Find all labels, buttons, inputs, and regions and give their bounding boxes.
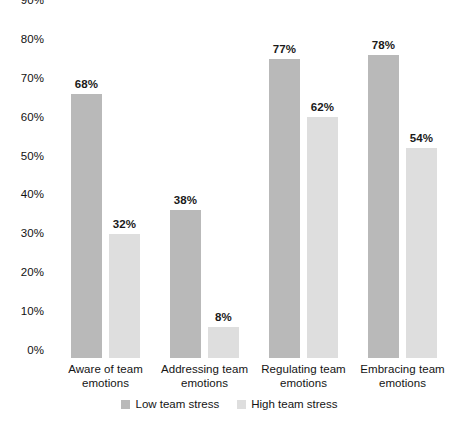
bar-value-label: 54% (410, 132, 433, 145)
bar-item[interactable]: 78% (368, 8, 399, 358)
legend-item[interactable]: High team stress (237, 398, 337, 411)
y-axis-tick-label: 60% (0, 111, 44, 123)
category-label-line: Regulating team (254, 362, 353, 376)
bar-rect[interactable] (71, 94, 102, 358)
bar-rect[interactable] (368, 55, 399, 358)
bar-pair: 38%8% (155, 8, 254, 358)
bar-value-label: 77% (273, 43, 296, 56)
bar-value-label: 78% (372, 39, 395, 52)
bar-chart: 90%80%70%60%50%40%30%20%10%0% 68%32%38%8… (0, 0, 459, 427)
bar-item[interactable]: 62% (307, 8, 338, 358)
bar-value-label: 8% (215, 311, 232, 324)
bar-value-label: 32% (113, 218, 136, 231)
category-label: Embracing teamemotions (353, 362, 452, 390)
y-axis-tick-label: 20% (0, 266, 44, 278)
bar-value-label: 38% (174, 194, 197, 207)
bar-pair: 68%32% (56, 8, 155, 358)
category-label-line: emotions (353, 376, 452, 390)
legend-item[interactable]: Low team stress (121, 398, 219, 411)
y-axis-tick-label: 10% (0, 305, 44, 317)
category-axis: Aware of teamemotionsAddressing teamemot… (56, 362, 452, 394)
bar-group: 68%32% (56, 8, 155, 358)
bar-rect[interactable] (406, 148, 437, 358)
bar-rect[interactable] (170, 210, 201, 358)
plot-area: 68%32%38%8%77%62%78%54% (56, 8, 452, 358)
y-axis-tick-label: 50% (0, 150, 44, 162)
y-axis-tick-label: 0% (0, 344, 44, 356)
bar-item[interactable]: 54% (406, 8, 437, 358)
bar-rect[interactable] (208, 327, 239, 358)
bar-item[interactable]: 38% (170, 8, 201, 358)
y-axis-tick-label: 80% (0, 33, 44, 45)
category-label: Addressing teamemotions (155, 362, 254, 390)
bar-value-label: 62% (311, 101, 334, 114)
bar-item[interactable]: 77% (269, 8, 300, 358)
bar-pair: 77%62% (254, 8, 353, 358)
bar-rect[interactable] (307, 117, 338, 358)
y-axis: 90%80%70%60%50%40%30%20%10%0% (0, 0, 52, 358)
y-axis-tick-label: 70% (0, 72, 44, 84)
category-label-line: emotions (155, 376, 254, 390)
bar-value-label: 68% (75, 78, 98, 91)
bar-group: 38%8% (155, 8, 254, 358)
legend-label: Low team stress (135, 398, 219, 411)
category-label-line: Addressing team (155, 362, 254, 376)
legend-swatch-icon (237, 400, 246, 409)
y-axis-tick-label: 30% (0, 227, 44, 239)
bar-rect[interactable] (269, 59, 300, 358)
chart-legend: Low team stressHigh team stress (0, 398, 459, 411)
legend-label: High team stress (251, 398, 337, 411)
category-label: Regulating teamemotions (254, 362, 353, 390)
bar-item[interactable]: 8% (208, 8, 239, 358)
category-label: Aware of teamemotions (56, 362, 155, 390)
legend-swatch-icon (121, 400, 130, 409)
bar-rect[interactable] (109, 234, 140, 358)
y-axis-tick-label: 40% (0, 188, 44, 200)
bar-item[interactable]: 32% (109, 8, 140, 358)
category-label-line: emotions (56, 376, 155, 390)
category-label-line: Embracing team (353, 362, 452, 376)
bar-item[interactable]: 68% (71, 8, 102, 358)
category-label-line: Aware of team (56, 362, 155, 376)
y-axis-tick-label: 90% (0, 0, 44, 6)
category-label-line: emotions (254, 376, 353, 390)
bar-group: 77%62% (254, 8, 353, 358)
bar-group: 78%54% (353, 8, 452, 358)
bar-pair: 78%54% (353, 8, 452, 358)
